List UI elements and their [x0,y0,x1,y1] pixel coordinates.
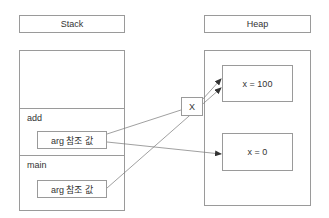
stack-header-label: Stack [61,19,84,29]
stack-header: Stack [19,15,125,33]
add-arg-reference: arg 참조 값 [37,131,107,149]
add-arg-label: arg 참조 값 [51,134,93,147]
stack-frame-main-label: main [27,160,47,170]
stack-frame-add-label: add [27,113,42,123]
heap-header-label: Heap [247,19,269,29]
main-arg-label: arg 참조 값 [51,183,93,196]
broken-reference-x-label: X [189,102,195,112]
heap-object-x100-label: x = 100 [243,79,273,89]
heap-object-x0-label: x = 0 [248,147,268,157]
heap-object-x100: x = 100 [222,65,293,102]
stack-frame-divider-add [19,108,125,109]
heap-header: Heap [204,15,311,33]
heap-object-x0: x = 0 [222,133,293,171]
broken-reference-x-box: X [181,97,203,116]
stack-frame-divider-main [19,155,125,156]
main-arg-reference: arg 참조 값 [37,180,107,198]
